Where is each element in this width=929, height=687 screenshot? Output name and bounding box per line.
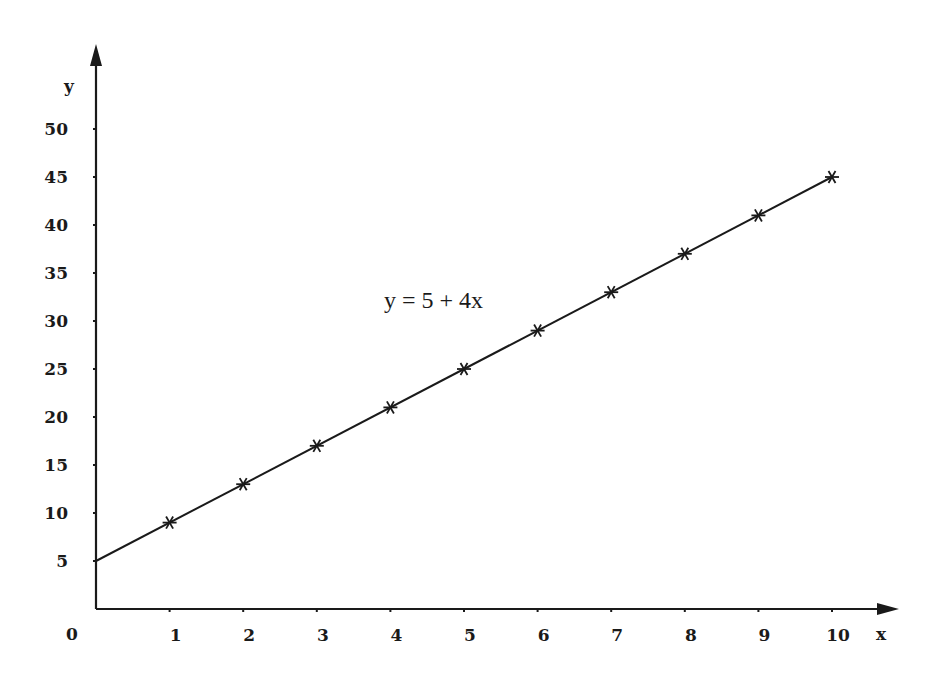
equation-annotation: y = 5 + 4x xyxy=(384,287,483,313)
x-tick-label: 8 xyxy=(685,625,697,645)
y-axis-title: y xyxy=(63,76,75,96)
y-tick-label: 35 xyxy=(44,263,68,283)
y-tick-label: 10 xyxy=(44,503,68,523)
star-marker-icon xyxy=(604,286,618,298)
x-tick-label: 1 xyxy=(170,625,182,645)
origin-label: 0 xyxy=(66,624,78,644)
y-tick-label: 15 xyxy=(44,455,68,475)
star-marker-icon xyxy=(678,248,692,260)
axes xyxy=(90,44,899,615)
y-tick-label: 50 xyxy=(44,119,68,139)
y-axis-arrow-icon xyxy=(90,44,102,66)
star-marker-icon xyxy=(310,440,324,452)
y-tick-label: 25 xyxy=(44,359,68,379)
x-tick-label: 9 xyxy=(758,625,770,645)
x-tick-labels: 12345678910 xyxy=(170,625,850,645)
y-tick-label: 20 xyxy=(44,407,68,427)
y-tick-labels: 5101520253035404550 xyxy=(44,119,68,571)
x-tick-label: 2 xyxy=(243,625,255,645)
x-tick-label: 10 xyxy=(826,625,850,645)
star-marker-icon xyxy=(236,478,250,490)
star-marker-icon xyxy=(531,325,545,337)
x-axis-title: x xyxy=(876,624,887,644)
star-marker-icon xyxy=(825,171,839,183)
x-axis-arrow-icon xyxy=(877,603,899,615)
y-tick-label: 5 xyxy=(56,551,68,571)
x-tick-label: 3 xyxy=(317,625,329,645)
star-marker-icon xyxy=(751,209,765,221)
y-tick-label: 30 xyxy=(44,311,68,331)
y-tick-label: 45 xyxy=(44,167,68,187)
x-tick-label: 4 xyxy=(390,625,402,645)
star-marker-icon xyxy=(457,363,471,375)
y-tick-label: 40 xyxy=(44,215,68,235)
line-chart: 12345678910 5101520253035404550 0 x y y … xyxy=(0,0,929,687)
star-marker-icon xyxy=(383,401,397,413)
star-marker-icon xyxy=(163,517,177,529)
x-tick-label: 7 xyxy=(611,625,623,645)
x-tick-label: 6 xyxy=(538,625,550,645)
data-series xyxy=(96,171,839,561)
x-tick-label: 5 xyxy=(464,625,476,645)
